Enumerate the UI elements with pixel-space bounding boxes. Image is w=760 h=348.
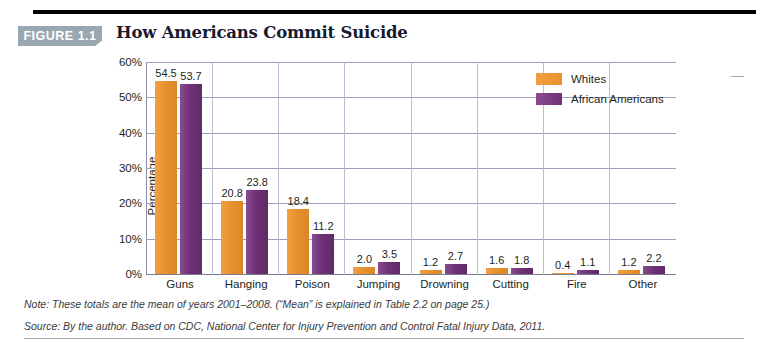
bar-value-label: 1.8 xyxy=(514,254,529,266)
bar-value-label: 1.2 xyxy=(423,256,438,268)
top-horizontal-rule xyxy=(33,10,756,14)
bar-value-label: 1.1 xyxy=(580,256,595,268)
chart-legend: Whites African Americans xyxy=(536,70,664,110)
bar-group: 1.61.8Cutting xyxy=(478,62,544,274)
x-axis-category-label: Guns xyxy=(147,278,213,290)
bar-whites xyxy=(618,270,640,274)
y-axis-tick-label: 40% xyxy=(102,127,142,139)
bar-african-americans xyxy=(378,262,400,274)
bar-group: 2.03.5Jumping xyxy=(345,62,411,274)
bar-whites xyxy=(221,201,243,274)
bar-african-americans xyxy=(312,234,334,274)
bar-group: 54.553.7Guns xyxy=(147,62,213,274)
bar-group: 20.823.8Hanging xyxy=(213,62,279,274)
y-axis-labels: Percentage 0%10%20%30%40%50%60% xyxy=(96,62,142,275)
bar-african-americans xyxy=(643,266,665,274)
y-axis-tick-label: 30% xyxy=(102,162,142,174)
bar-value-label: 2.2 xyxy=(646,252,661,264)
bar-whites xyxy=(486,268,508,274)
bar-whites xyxy=(420,270,442,274)
legend-item-african-americans: African Americans xyxy=(536,90,664,107)
bar-value-label: 20.8 xyxy=(221,187,242,199)
bar-african-americans xyxy=(577,270,599,274)
bar-group: 1.22.7Drowning xyxy=(412,62,478,274)
bar-whites xyxy=(287,209,309,274)
x-axis-category-label: Jumping xyxy=(345,278,411,290)
y-axis-tick-label: 0% xyxy=(102,268,142,280)
x-axis-category-label: Fire xyxy=(544,278,610,290)
bar-value-label: 3.5 xyxy=(382,248,397,260)
x-axis-category-label: Poison xyxy=(279,278,345,290)
y-axis-tick-label: 60% xyxy=(102,56,142,68)
y-axis-tick-label: 10% xyxy=(102,233,142,245)
legend-item-whites: Whites xyxy=(536,70,664,87)
bar-african-americans xyxy=(246,190,268,274)
bar-whites xyxy=(353,267,375,274)
bar-value-label: 2.0 xyxy=(357,253,372,265)
bar-value-label: 54.5 xyxy=(155,67,176,79)
legend-label-african-americans: African Americans xyxy=(571,93,664,105)
bar-value-label: 1.2 xyxy=(621,256,636,268)
bar-value-label: 53.7 xyxy=(180,70,201,82)
x-axis-category-label: Drowning xyxy=(412,278,478,290)
x-axis-category-label: Hanging xyxy=(213,278,279,290)
legend-label-whites: Whites xyxy=(571,73,606,85)
bar-value-label: 18.4 xyxy=(288,195,309,207)
bar-value-label: 0.4 xyxy=(555,259,570,271)
gridline-stub xyxy=(731,76,744,77)
bar-whites xyxy=(552,273,574,275)
bar-group: 18.411.2Poison xyxy=(279,62,345,274)
note-text: Note: These totals are the mean of years… xyxy=(24,298,489,310)
x-axis-category-label: Cutting xyxy=(478,278,544,290)
bar-african-americans xyxy=(180,84,202,274)
legend-swatch-whites xyxy=(536,73,562,85)
bar-whites xyxy=(155,81,177,274)
y-axis-tick-label: 20% xyxy=(102,197,142,209)
bar-african-americans xyxy=(511,268,533,274)
source-text: Source: By the author. Based on CDC, Nat… xyxy=(24,320,545,332)
bar-value-label: 1.6 xyxy=(489,254,504,266)
bar-african-americans xyxy=(445,264,467,274)
y-axis-tick-label: 50% xyxy=(102,91,142,103)
x-axis-category-label: Other xyxy=(610,278,676,290)
legend-swatch-african-americans xyxy=(536,93,562,105)
figure-title: How Americans Commit Suicide xyxy=(116,23,408,42)
bar-value-label: 11.2 xyxy=(313,220,334,232)
bottom-horizontal-rule xyxy=(24,338,744,339)
bar-value-label: 23.8 xyxy=(246,176,267,188)
figure-number-badge: FIGURE 1.1 xyxy=(18,26,102,46)
bar-value-label: 2.7 xyxy=(448,250,463,262)
